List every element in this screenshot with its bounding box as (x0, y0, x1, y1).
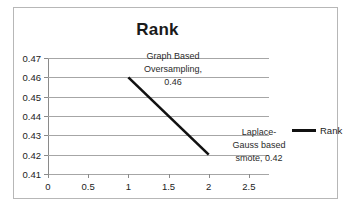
x-tick-mark (249, 174, 250, 178)
x-tick-label: 0.5 (82, 181, 95, 192)
legend-line-marker-icon (292, 129, 316, 132)
chart-legend: Rank (292, 125, 342, 136)
chart-frame: Rank 0.470.460.450.440.430.420.41 00.511… (13, 7, 338, 199)
x-tick-mark (209, 174, 210, 178)
y-tick-label: 0.42 (23, 149, 42, 160)
y-tick-label: 0.46 (23, 72, 42, 83)
chart-title: Rank (0, 20, 319, 40)
y-tick-label: 0.47 (23, 53, 42, 64)
x-tick-label: 1.5 (162, 181, 175, 192)
plot-area: 0.470.460.450.440.430.420.41 00.511.522.… (48, 58, 269, 174)
gridline-y (48, 174, 269, 175)
x-tick-label: 2.5 (242, 181, 255, 192)
data-label-laplace-gauss-based-smote: Laplace- Gauss based smote, 0.42 (216, 126, 302, 165)
y-tick-label: 0.43 (23, 130, 42, 141)
x-tick-label: 1 (126, 181, 131, 192)
x-tick-mark (48, 174, 49, 178)
y-tick-label: 0.45 (23, 91, 42, 102)
x-tick-mark (169, 174, 170, 178)
y-tick-label: 0.44 (23, 111, 42, 122)
data-label-graph-based-oversampling: Graph Based Oversampling, 0.46 (126, 50, 220, 89)
x-tick-mark (88, 174, 89, 178)
y-tick-label: 0.41 (23, 169, 42, 180)
legend-item-rank: Rank (320, 125, 342, 136)
x-tick-label: 2 (206, 181, 211, 192)
x-tick-label: 0 (45, 181, 50, 192)
x-tick-mark (128, 174, 129, 178)
